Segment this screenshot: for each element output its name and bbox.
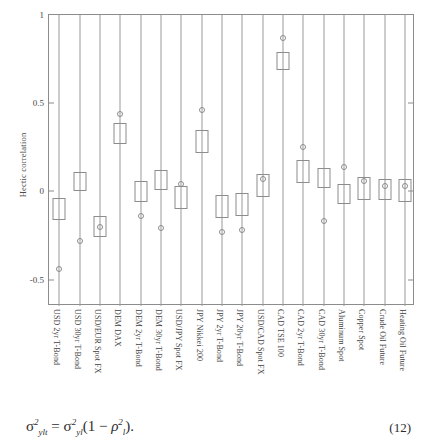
x-tick-label: CAD 2yr T-Bond xyxy=(296,309,305,366)
median-marker xyxy=(341,164,347,170)
median-marker xyxy=(300,144,306,150)
whisker-line xyxy=(181,15,182,306)
whisker-line xyxy=(242,15,243,306)
box[interactable] xyxy=(73,172,86,191)
y-tick-mark xyxy=(49,191,54,192)
box[interactable] xyxy=(276,52,289,70)
y-axis-title: Hectic correlation xyxy=(18,95,28,235)
median-marker xyxy=(280,35,286,41)
whisker-line xyxy=(404,15,405,306)
x-tick-label: Copper Spot xyxy=(357,309,366,350)
x-tick-label: JPY 2yr T-Bond xyxy=(215,309,224,362)
figure-container: Hectic correlation 10.50-0.5 USD 2yr T-B… xyxy=(0,0,425,447)
box[interactable] xyxy=(195,130,208,153)
x-tick-label: USD 2yr T-Bond xyxy=(52,309,61,365)
whisker-line xyxy=(323,15,324,306)
x-tick-label: JPY Nikkei 200 xyxy=(195,309,204,361)
x-tick-label: USD/EUR Spot FX xyxy=(93,309,102,374)
median-marker xyxy=(117,111,123,117)
median-marker xyxy=(382,183,388,189)
whisker-line xyxy=(221,15,222,306)
equation-number: (12) xyxy=(389,420,411,436)
whisker-line xyxy=(201,15,202,306)
median-marker xyxy=(402,183,408,189)
box[interactable] xyxy=(53,198,66,219)
whisker-line xyxy=(343,15,344,306)
plot-area: 10.50-0.5 xyxy=(48,14,414,305)
median-marker xyxy=(199,107,205,113)
x-tick-label: CAD TSE 100 xyxy=(276,309,285,357)
whisker-line xyxy=(99,15,100,306)
whisker-line xyxy=(262,15,263,306)
x-tick-label: JPY 20yr T-Bond xyxy=(235,309,244,366)
box[interactable] xyxy=(154,170,167,189)
x-tick-label: Heating Oil Future xyxy=(398,309,407,371)
x-tick-label: CAD 30yr T-Bond xyxy=(317,309,326,370)
x-tick-label: USD/CAD Spot FX xyxy=(256,309,265,375)
box[interactable] xyxy=(317,168,330,187)
whisker-line xyxy=(59,15,60,306)
x-tick-label: USD/JPY Spot FX xyxy=(174,309,183,371)
median-marker xyxy=(239,227,245,233)
median-marker xyxy=(321,218,327,224)
y-tick-label: -0.5 xyxy=(30,275,44,285)
whisker-line xyxy=(160,15,161,306)
median-marker xyxy=(77,238,83,244)
y-tick-label: 1 xyxy=(40,10,45,20)
y-tick-label: 0 xyxy=(40,186,45,196)
median-marker xyxy=(56,266,62,272)
box[interactable] xyxy=(337,184,350,203)
box[interactable] xyxy=(175,186,188,209)
y-tick-mark xyxy=(408,279,413,280)
y-tick-mark xyxy=(49,279,54,280)
box[interactable] xyxy=(297,160,310,183)
box[interactable] xyxy=(114,123,127,144)
x-tick-label: Aluminum Spot xyxy=(337,309,346,362)
equation-text: σ2ylt = σ2yl(1 − ρ2l). xyxy=(26,417,134,437)
y-tick-label: 0.5 xyxy=(33,98,44,108)
median-marker xyxy=(219,229,225,235)
whisker-line xyxy=(384,15,385,306)
box[interactable] xyxy=(215,195,228,218)
x-tick-label: DEM 30yr T-Bond xyxy=(154,309,163,371)
x-tick-label: DEM DAX xyxy=(113,309,122,347)
whisker-line xyxy=(364,15,365,306)
box[interactable] xyxy=(236,193,249,216)
whisker-line xyxy=(140,15,141,306)
x-tick-label: USD 30yr T-Bond xyxy=(73,309,82,369)
median-marker xyxy=(158,225,164,231)
median-marker xyxy=(97,224,103,230)
median-marker xyxy=(260,176,266,182)
x-tick-label: Crude Oil Future xyxy=(378,309,387,365)
box[interactable] xyxy=(134,181,147,202)
whisker-line xyxy=(120,15,121,306)
median-marker xyxy=(138,213,144,219)
whisker-line xyxy=(79,15,80,306)
x-tick-label: DEM 2yr T-Bond xyxy=(134,309,143,367)
median-marker xyxy=(361,178,367,184)
y-tick-mark xyxy=(49,103,54,104)
y-tick-mark xyxy=(408,103,413,104)
